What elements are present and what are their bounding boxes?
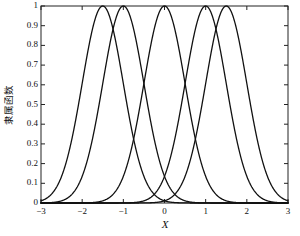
x-tick-label: 0 [153, 206, 177, 216]
x-axis-label: X [41, 218, 289, 230]
x-axis-tick-labels: −3−2−10123 [0, 0, 300, 236]
x-tick-label: 3 [276, 206, 300, 216]
x-tick-label: −2 [70, 206, 94, 216]
x-tick-label: −3 [29, 206, 53, 216]
x-tick-label: 2 [235, 206, 259, 216]
x-tick-label: −1 [111, 206, 135, 216]
chart-figure: 00.10.20.30.40.50.60.70.80.91 −3−2−10123… [0, 0, 300, 236]
x-tick-label: 1 [194, 206, 218, 216]
